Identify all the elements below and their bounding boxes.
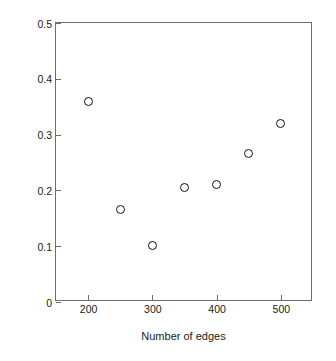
data-point	[148, 241, 157, 250]
data-point	[84, 97, 93, 106]
data-point	[212, 180, 221, 189]
y-tick-label: 0.2	[37, 186, 52, 197]
scatter-chart-figure: 00.10.20.30.40.5 200300400500 Number of …	[0, 0, 336, 361]
y-tick: 0	[56, 302, 61, 303]
x-axis-label: Number of edges	[55, 330, 312, 342]
y-tick: 0.1	[56, 246, 61, 247]
x-tick-label: 500	[273, 304, 291, 315]
data-point	[180, 183, 189, 192]
x-tick: 300	[152, 295, 153, 300]
x-tick: 200	[88, 295, 89, 300]
data-point	[244, 149, 253, 158]
x-tick-label: 200	[80, 304, 98, 315]
y-tick-label: 0.3	[37, 130, 52, 141]
y-tick: 0.3	[56, 135, 61, 136]
data-point	[116, 205, 125, 214]
data-point	[276, 119, 285, 128]
plot-area: 00.10.20.30.40.5 200300400500	[55, 22, 312, 301]
x-tick: 400	[217, 295, 218, 300]
x-tick-label: 300	[144, 304, 162, 315]
y-tick: 0.2	[56, 190, 61, 191]
y-tick-label: 0.4	[37, 74, 52, 85]
y-tick-label: 0.1	[37, 241, 52, 252]
x-tick: 500	[281, 295, 282, 300]
y-tick: 0.4	[56, 79, 61, 80]
y-tick-label: 0.5	[37, 18, 52, 29]
x-tick-label: 400	[208, 304, 226, 315]
y-tick: 0.5	[56, 23, 61, 24]
y-tick-label: 0	[46, 297, 52, 308]
